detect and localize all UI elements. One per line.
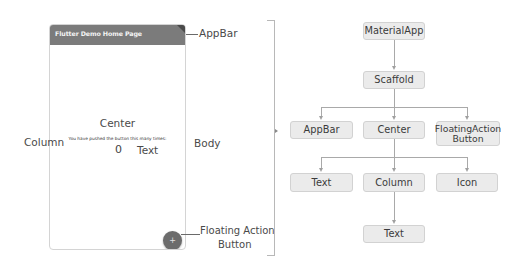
counter-value: 0 <box>115 143 122 156</box>
arrow-icon <box>465 116 469 120</box>
edge-materialapp-scaffold <box>394 40 395 67</box>
appbar-pointer-line <box>186 34 198 35</box>
center-label: Center <box>50 117 185 129</box>
arrow-icon <box>392 220 396 224</box>
floating-action-button[interactable]: + <box>163 231 182 250</box>
edge-center-branch <box>321 157 468 158</box>
node-fab-line2: Button <box>452 134 483 143</box>
arrow-icon <box>392 168 396 172</box>
node-center: Center <box>363 121 425 139</box>
arrow-icon <box>465 168 469 172</box>
fab-annotation-line1: Floating Action <box>200 225 275 236</box>
edge-scaffold-center <box>394 89 395 117</box>
arrow-icon <box>319 168 323 172</box>
plus-icon: + <box>163 231 182 250</box>
edge-column-text <box>394 192 395 221</box>
arrow-icon <box>319 116 323 120</box>
arrow-icon <box>392 116 396 120</box>
bracket-vertical <box>274 20 275 256</box>
node-floating-action-button: FloatingAction Button <box>436 121 500 146</box>
node-text-bottom: Text <box>363 225 425 243</box>
fab-annotation-line2: Button <box>218 239 252 250</box>
debug-banner-icon <box>177 25 186 34</box>
arrow-icon <box>392 66 396 70</box>
body-annotation: Body <box>194 137 221 149</box>
appbar-annotation: AppBar <box>199 27 237 39</box>
app-bar-title: Flutter Demo Home Page <box>55 30 142 37</box>
node-appbar: AppBar <box>290 121 353 139</box>
fab-pointer-line <box>181 234 200 235</box>
bracket-top-tick <box>267 20 275 21</box>
bracket-bottom-tick <box>267 255 275 256</box>
bracket-arrow-icon <box>275 129 278 133</box>
node-materialapp: MaterialApp <box>363 22 425 40</box>
text-label: Text <box>137 144 158 156</box>
pushed-count-text: You have pushed the button this many tim… <box>50 136 185 141</box>
edge-center-column <box>394 139 395 169</box>
node-text-left: Text <box>290 173 353 192</box>
node-icon: Icon <box>436 173 498 192</box>
app-bar: Flutter Demo Home Page <box>50 25 185 45</box>
edge-scaffold-branch <box>321 107 468 108</box>
column-annotation: Column <box>24 136 64 148</box>
phone-mockup: Flutter Demo Home Page Center You have p… <box>49 24 186 250</box>
node-scaffold: Scaffold <box>363 71 425 89</box>
node-column: Column <box>363 173 425 192</box>
